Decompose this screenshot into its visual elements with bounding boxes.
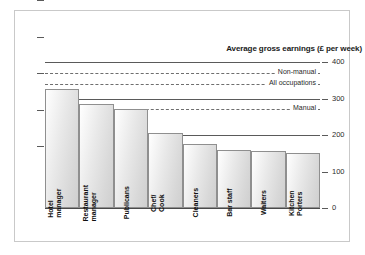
bar-label-line: manager: [55, 188, 63, 217]
bar-label-waiters: Waiters: [261, 190, 269, 215]
bar-label-line: Kitchen: [288, 190, 296, 216]
bar-label-bar-staff: Bar staff: [226, 189, 234, 217]
chart-title: Average gross earnings (£ per week): [190, 44, 362, 53]
y-axis-label-0: 0: [332, 203, 336, 212]
bar-label-publicans: Publicans: [123, 186, 131, 219]
gridline-300: [45, 99, 320, 100]
gridline-400: [45, 62, 320, 63]
y-tick-mark-left-300: [37, 37, 44, 38]
bar-label-chef-cook: Chef/Cook: [150, 194, 165, 212]
y-tick-mark-100: [322, 172, 328, 173]
bar-bar-staff[interactable]: Bar staff: [217, 150, 251, 208]
y-tick-mark-left-400: [37, 0, 44, 1]
y-tick-mark-left-100: [37, 110, 44, 111]
bar-label-cleaners: Cleaners: [192, 188, 200, 218]
bar-label-line: manager: [89, 185, 97, 222]
y-tick-mark-400: [322, 62, 328, 63]
y-tick-mark-200: [322, 135, 328, 136]
bar-cleaners[interactable]: Cleaners: [183, 144, 217, 208]
y-tick-mark-300: [322, 99, 328, 100]
bar-label-restaurant-manager: Restaurantmanager: [81, 185, 96, 222]
reference-label-non-manual: Non-manual: [275, 68, 318, 75]
y-axis-label-100: 100: [332, 167, 345, 176]
bar-label-line: Porters: [295, 190, 303, 216]
bar-restaurant-manager[interactable]: Restaurantmanager: [79, 104, 113, 208]
bar-kitchen-porters[interactable]: KitchenPorters: [286, 153, 320, 208]
bar-label-line: Waiters: [261, 190, 269, 215]
bar-chart: Average gross earnings (£ per week) Hote…: [0, 0, 365, 255]
y-axis-label-200: 200: [332, 130, 345, 139]
y-tick-mark-0: [322, 208, 328, 209]
reference-label-all-occupations: All occupations: [266, 79, 318, 86]
bar-hotel-manager[interactable]: Hotelmanager: [45, 89, 79, 208]
bar-label-line: Bar staff: [226, 189, 234, 217]
reference-label-manual: Manual: [290, 104, 318, 111]
bar-publicans[interactable]: Publicans: [114, 109, 148, 208]
y-tick-mark-left-0: [37, 146, 44, 147]
bar-label-line: Publicans: [123, 186, 131, 219]
bar-label-line: Cook: [158, 194, 166, 212]
bar-label-hotel-manager: Hotelmanager: [47, 188, 62, 217]
bar-label-line: Cleaners: [192, 188, 200, 218]
bar-label-line: Restaurant: [81, 185, 89, 222]
y-axis-label-300: 300: [332, 94, 345, 103]
bar-waiters[interactable]: Waiters: [251, 151, 285, 208]
bar-label-kitchen-porters: KitchenPorters: [288, 190, 303, 216]
bar-chef-cook[interactable]: Chef/Cook: [148, 133, 182, 208]
y-tick-mark-left-200: [37, 73, 44, 74]
y-axis-label-400: 400: [332, 57, 345, 66]
